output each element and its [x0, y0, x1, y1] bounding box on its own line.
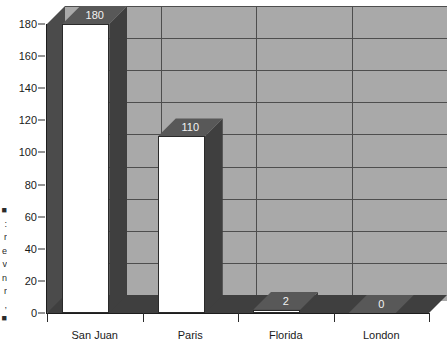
y-axis-tick-label: 40 [25, 243, 37, 255]
y-axis-tick-label: 140 [19, 82, 37, 94]
y-axis-tick-label: 160 [19, 50, 37, 62]
x-axis-category-label: Florida [269, 329, 303, 341]
plot-area: 18011020 [0, 0, 447, 351]
y-axis-tick-label: 20 [25, 275, 37, 287]
y-axis-tick-mark [38, 56, 45, 57]
bar-paris[interactable] [158, 118, 223, 313]
y-axis-tick-mark [38, 152, 45, 153]
bar-front-face [62, 24, 109, 313]
y-axis-tick-mark [38, 313, 45, 314]
y-axis-tick-mark [38, 120, 45, 121]
y-axis-tick-mark [38, 280, 45, 281]
x-axis-category-label: Paris [178, 329, 203, 341]
bar-value-label: 180 [86, 9, 104, 21]
x-axis-tick-mark [334, 313, 335, 322]
bar-value-label: 2 [283, 295, 289, 307]
bar-front-face [253, 310, 300, 313]
gridline-vertical [256, 6, 257, 301]
bar-value-label: 110 [181, 121, 199, 133]
y-axis-tick-label: 0 [31, 307, 37, 319]
x-axis-category-label: London [363, 329, 400, 341]
gridline-vertical [352, 6, 353, 301]
bar-san-juan[interactable] [62, 6, 127, 313]
y-axis-tick-mark [38, 24, 45, 25]
y-axis-tick-label: 80 [25, 179, 37, 191]
y-axis-tick-label: 120 [19, 114, 37, 126]
bar-side-face [109, 6, 127, 313]
bar-value-label: 0 [378, 298, 384, 310]
y-axis-tick-mark [38, 248, 45, 249]
bar-chart-3d: ■ : r e v n r , ■ 18011020 0204060801001… [0, 0, 447, 351]
y-axis-tick-mark [38, 184, 45, 185]
x-axis-tick-mark [238, 313, 239, 322]
y-axis-tick-label: 60 [25, 211, 37, 223]
x-axis-category-label: San Juan [72, 329, 118, 341]
x-axis-tick-mark [429, 313, 430, 322]
y-axis-tick-label: 180 [19, 18, 37, 30]
bar-side-face [205, 118, 223, 313]
bar-front-face [158, 136, 205, 313]
y-axis: 020406080100120140160180 [0, 0, 47, 351]
y-axis-tick-mark [38, 216, 45, 217]
x-axis-tick-mark [143, 313, 144, 322]
y-axis-tick-label: 100 [19, 146, 37, 158]
y-axis-tick-mark [38, 88, 45, 89]
x-axis-tick-mark [47, 313, 48, 322]
